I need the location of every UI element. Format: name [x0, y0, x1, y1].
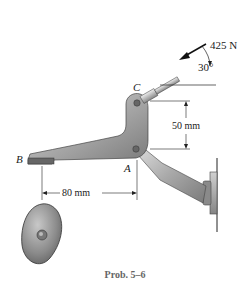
point-c-label: C [133, 82, 140, 93]
point-b-label: B [16, 154, 23, 165]
wall-support [203, 158, 217, 232]
force-magnitude-label: 425 N [210, 40, 237, 51]
point-a-label: A [124, 163, 131, 174]
cam [22, 204, 62, 264]
dimension-80mm-label: 80 mm [62, 188, 90, 198]
dimension-50mm-label: 50 mm [172, 121, 200, 131]
lever [28, 93, 148, 164]
force-angle-label: 30° [198, 62, 213, 73]
figure-caption: Prob. 5–6 [0, 269, 250, 280]
force-rod [140, 76, 180, 104]
link-arm [136, 142, 206, 203]
